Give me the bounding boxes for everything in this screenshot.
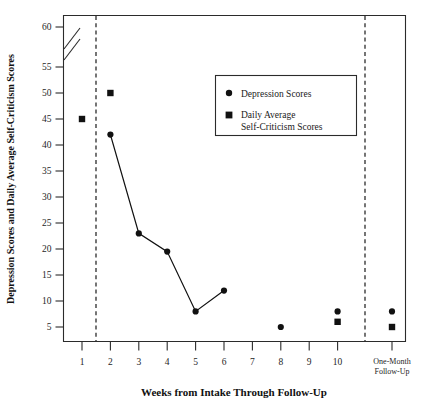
x-tick-label-5: 5 bbox=[193, 357, 198, 367]
x-tick-label-followup-line2: Follow-Up bbox=[374, 367, 409, 376]
x-tick-label-4: 4 bbox=[165, 357, 170, 367]
selfcriticism-point-week-10 bbox=[334, 319, 340, 325]
legend-square-icon bbox=[226, 112, 233, 119]
y-tick-label-10: 10 bbox=[42, 296, 52, 306]
y-tick-label-50: 50 bbox=[42, 88, 52, 98]
legend: Depression Scores Daily Average Self-Cri… bbox=[216, 76, 357, 136]
x-tick-label-9: 9 bbox=[307, 357, 312, 367]
selfcriticism-point-week-2 bbox=[107, 90, 113, 96]
depression-point-week-4 bbox=[164, 249, 170, 255]
depression-point-week-One-Month Follow-Up bbox=[389, 308, 395, 314]
selfcriticism-point-week-One-Month Follow-Up bbox=[389, 324, 395, 330]
y-tick-label-15: 15 bbox=[42, 270, 52, 280]
y-tick-label-5: 5 bbox=[47, 322, 52, 332]
depression-point-week-2 bbox=[107, 132, 113, 138]
y-tick-label-40: 40 bbox=[42, 140, 52, 150]
x-axis-title: Weeks from Intake Through Follow-Up bbox=[141, 386, 327, 398]
y-axis-title: Depression Scores and Daily Average Self… bbox=[5, 54, 16, 304]
y-tick-label-30: 30 bbox=[42, 192, 52, 202]
y-tick-label-55: 55 bbox=[42, 62, 52, 72]
depression-point-week-10 bbox=[335, 308, 341, 314]
legend-label-selfcriticism-line2: Self-Criticism Scores bbox=[241, 122, 323, 132]
x-tick-label-7: 7 bbox=[250, 357, 255, 367]
x-tick-label-2: 2 bbox=[108, 357, 113, 367]
legend-label-selfcriticism-line1: Daily Average bbox=[241, 110, 295, 120]
x-tick-label-6: 6 bbox=[222, 357, 227, 367]
y-tick-label-35: 35 bbox=[42, 166, 52, 176]
y-tick-label-45: 45 bbox=[42, 114, 52, 124]
legend-label-depression: Depression Scores bbox=[241, 89, 312, 99]
x-tick-label-8: 8 bbox=[278, 357, 283, 367]
legend-circle-icon bbox=[226, 90, 232, 96]
selfcriticism-point-week-1 bbox=[79, 116, 85, 122]
depression-point-week-6 bbox=[221, 288, 227, 294]
chart-svg: 51015202530354045505560 12345678910One-M… bbox=[0, 0, 432, 410]
x-tick-label-followup-line1: One-Month bbox=[373, 357, 410, 366]
x-tick-label-3: 3 bbox=[136, 357, 141, 367]
y-tick-label-20: 20 bbox=[42, 244, 52, 254]
x-tick-label-10: 10 bbox=[333, 357, 343, 367]
y-tick-label-60: 60 bbox=[42, 22, 52, 32]
chart-background bbox=[0, 0, 432, 410]
chart-container: 51015202530354045505560 12345678910One-M… bbox=[0, 0, 432, 410]
depression-point-week-5 bbox=[193, 308, 199, 314]
y-tick-label-25: 25 bbox=[42, 218, 52, 228]
x-tick-label-1: 1 bbox=[80, 357, 85, 367]
depression-point-week-3 bbox=[136, 230, 142, 236]
depression-point-week-8 bbox=[278, 324, 284, 330]
